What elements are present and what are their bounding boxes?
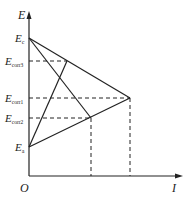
potential-labels: EcEcorr3Ecorr1Ecorr2Ea [4,32,25,154]
polarization-lines [29,38,130,147]
cathodic-line-1 [29,38,130,98]
label-Ecorr2: Ecorr2 [4,112,24,125]
y-axis-label: E [17,8,26,22]
label-Ea: Ea [14,141,25,154]
anodic-line-2 [29,61,67,147]
origin-label: O [20,181,29,195]
y-axis-arrow-icon [27,11,32,19]
dashed-guides [29,61,130,176]
label-Ecorr3: Ecorr3 [4,55,24,68]
x-axis-arrow-icon [175,174,183,179]
label-Ecorr1: Ecorr1 [4,92,24,105]
label-Ec: Ec [14,32,25,45]
anodic-line-1 [29,98,130,147]
x-axis-label: I [171,181,177,195]
evans-diagram: E I O EcEcorr3Ecorr1Ecorr2Ea [0,0,185,198]
